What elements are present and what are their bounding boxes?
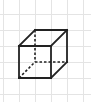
cube-visible-edge bbox=[51, 62, 67, 78]
diagram-canvas bbox=[0, 0, 91, 102]
cube-diagram bbox=[0, 0, 91, 102]
cube-visible-edge bbox=[51, 30, 67, 46]
cube-visible-edge bbox=[19, 30, 35, 46]
cube-hidden-edge bbox=[19, 62, 35, 78]
grid-paper bbox=[0, 0, 91, 102]
